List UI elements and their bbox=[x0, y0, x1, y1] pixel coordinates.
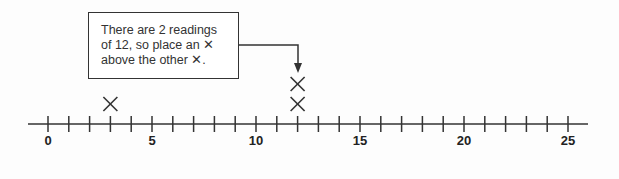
dot-plot-diagram: There are 2 readings of 12, so place an … bbox=[0, 0, 619, 179]
tick-label: 0 bbox=[44, 133, 51, 148]
callout-line: above the other ✕. bbox=[101, 53, 238, 68]
callout-line: There are 2 readings bbox=[101, 23, 238, 38]
tick-label: 20 bbox=[457, 133, 471, 148]
tick-label: 10 bbox=[249, 133, 263, 148]
tick-label: 25 bbox=[561, 133, 575, 148]
tick-label: 5 bbox=[148, 133, 155, 148]
annotation-callout: There are 2 readings of 12, so place an … bbox=[88, 12, 239, 79]
callout-line: of 12, so place an ✕ bbox=[101, 38, 238, 53]
tick-label: 15 bbox=[353, 133, 367, 148]
